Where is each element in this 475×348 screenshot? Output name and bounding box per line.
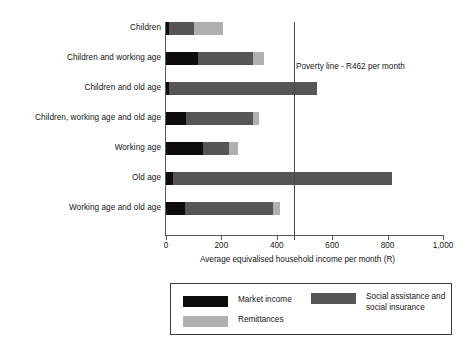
x-tick-label-1000: 1,000 xyxy=(433,241,454,251)
bar-segment-market-income xyxy=(166,202,185,215)
legend-label-remittances: Remittances xyxy=(238,315,284,326)
x-tick-label-600: 600 xyxy=(325,241,339,251)
category-label-old-age: Old age xyxy=(0,173,161,183)
bar-segment-social-assistance xyxy=(186,112,253,125)
legend-item-social-assistance: Social assistance and social insurance xyxy=(311,292,445,313)
bar-segment-remittances xyxy=(273,202,280,215)
x-axis-title: Average equivalised household income per… xyxy=(0,254,475,265)
x-axis-title-text: Average equivalised household income per… xyxy=(80,255,395,264)
bar-segment-social-assistance xyxy=(198,52,253,65)
poverty-line-marker xyxy=(294,22,295,240)
bar-chart: Children Children and working age Childr… xyxy=(0,0,475,348)
category-label-children-and-old-age: Children and old age xyxy=(0,83,161,93)
legend-swatch-remittances xyxy=(183,316,228,327)
bar-segment-market-income xyxy=(166,142,203,155)
legend-swatch-market-income xyxy=(183,296,228,307)
bar-segment-social-assistance xyxy=(173,172,392,185)
bar-segment-social-assistance xyxy=(203,142,229,155)
legend-item-market-income: Market income xyxy=(183,295,292,307)
bar-segment-social-assistance xyxy=(185,202,273,215)
category-label-children-and-working-age: Children and working age xyxy=(0,53,161,63)
bar-segment-social-assistance xyxy=(169,22,194,35)
bar-segment-remittances xyxy=(229,142,238,155)
category-label-working-age-and-old-age: Working age and old age xyxy=(0,203,161,213)
legend: Market income Social assistance and soci… xyxy=(170,283,452,335)
bar-segment-market-income xyxy=(166,172,173,185)
legend-label-social-assistance: Social assistance and social insurance xyxy=(366,292,445,313)
legend-label-market-income: Market income xyxy=(238,295,292,306)
category-label-children: Children xyxy=(0,23,161,33)
x-tick-label-200: 200 xyxy=(215,241,229,251)
bar-segment-remittances xyxy=(194,22,223,35)
x-tick-label-400: 400 xyxy=(270,241,284,251)
poverty-line-label: Poverty line - R462 per month xyxy=(296,62,405,72)
bar-segment-remittances xyxy=(253,112,259,125)
category-label-working-age: Working age xyxy=(0,143,161,153)
bar-segment-remittances xyxy=(253,52,264,65)
x-tick-label-0: 0 xyxy=(164,241,169,251)
plot-area xyxy=(166,22,443,234)
category-label-children-working-age-and-old-age: Children, working age and old age xyxy=(0,113,161,123)
x-tick-label-800: 800 xyxy=(381,241,395,251)
legend-item-remittances: Remittances xyxy=(183,315,284,327)
category-axis-labels: Children Children and working age Childr… xyxy=(0,22,161,234)
bar-segment-market-income xyxy=(166,52,198,65)
legend-swatch-social-assistance xyxy=(311,293,356,304)
x-axis-line xyxy=(166,235,444,236)
bar-segment-market-income xyxy=(166,112,186,125)
